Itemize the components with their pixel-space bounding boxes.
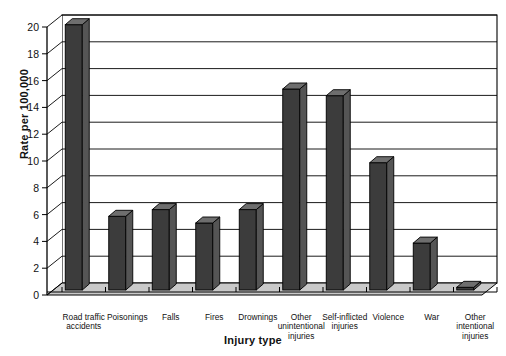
x-tick-label-9: Otherintentionalinjuries [448, 313, 504, 341]
bar-3 [196, 217, 220, 290]
y-tick-label-8: 8 [13, 183, 39, 193]
y-tick-label-6: 6 [13, 210, 39, 220]
y-tick-label-12: 12 [13, 129, 39, 139]
bar-8 [413, 237, 437, 290]
bar-5 [283, 83, 307, 290]
chart-container: Rate per 100,000 Injury type 02468101214… [0, 0, 506, 356]
y-tick-label-20: 20 [13, 22, 39, 32]
y-tick-label-16: 16 [13, 76, 39, 86]
y-tick-label-4: 4 [13, 236, 39, 246]
y-tick-label-10: 10 [13, 156, 39, 166]
plot-area [0, 0, 506, 356]
chart-svg [0, 0, 506, 356]
bar-2 [152, 204, 176, 290]
y-tick-label-2: 2 [13, 263, 39, 273]
y-tick-label-14: 14 [13, 102, 39, 112]
bar-7 [370, 157, 394, 290]
bar-0 [65, 19, 89, 290]
bar-6 [326, 90, 350, 290]
bar-1 [109, 210, 133, 290]
y-tick-label-18: 18 [13, 49, 39, 59]
x-axis-ticks: Road trafficaccidentsPoisoningsFallsFire… [0, 309, 506, 355]
y-tick-label-0: 0 [13, 290, 39, 300]
bar-4 [239, 204, 263, 290]
